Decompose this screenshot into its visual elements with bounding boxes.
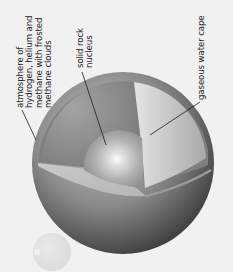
atmosphere-leader-line <box>22 110 36 140</box>
water-label: gaseous water cape <box>197 15 206 100</box>
nucleus-label: solid rock nucleus <box>76 28 95 68</box>
atmosphere-label: atmosphere of hydrogen, helium and metha… <box>16 16 53 108</box>
planet-diagram: atmosphere of hydrogen, helium and metha… <box>0 0 233 272</box>
